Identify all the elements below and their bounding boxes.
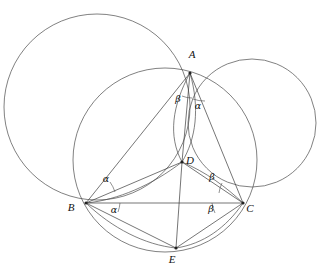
vertex-dots-group: [84, 71, 244, 249]
angle-beta-at-C-upper: β: [208, 171, 215, 182]
point-label-d: D: [185, 154, 194, 166]
vertex-dot-c: [241, 201, 244, 204]
geometry-canvas: ABCDE βαααββ: [0, 0, 335, 276]
point-labels-group: ABCDE: [68, 48, 255, 265]
segments-group: [86, 73, 243, 248]
segment-CD: [182, 162, 243, 203]
angle-beta-at-C-lower: β: [207, 203, 214, 214]
angle-alpha-at-B-upper: α: [103, 173, 110, 184]
point-label-b: B: [68, 201, 75, 213]
vertex-dot-a: [188, 71, 191, 74]
construction-arcs-group: [86, 73, 243, 248]
segment-BD: [86, 162, 182, 203]
angle-arc-alpha-B-lower: [118, 203, 120, 212]
angle-alpha-at-A: α: [195, 100, 202, 111]
angle-arc-beta-A: [182, 96, 192, 98]
circle-through-A-B: [4, 14, 190, 200]
segment-DE: [176, 162, 182, 248]
segment-BE: [86, 203, 176, 248]
vertex-dot-d: [180, 160, 183, 163]
angle-beta-at-A: β: [174, 93, 181, 104]
circles-group: [4, 14, 316, 252]
angle-arc-alpha-B-upper: [110, 182, 115, 192]
point-label-c: C: [246, 202, 254, 214]
point-label-e: E: [168, 253, 176, 265]
vertex-dot-e: [174, 246, 177, 249]
vertex-dot-b: [84, 201, 87, 204]
angle-alpha-at-B-lower: α: [111, 204, 118, 215]
circumcircle-ABCE: [73, 68, 257, 252]
point-label-a: A: [188, 48, 196, 60]
geometry-figure: ABCDE βαααββ: [0, 0, 335, 276]
segment-AC: [190, 73, 243, 203]
